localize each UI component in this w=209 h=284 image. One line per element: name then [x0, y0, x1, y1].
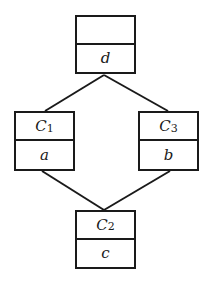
- edge-right-bottom: [104, 171, 170, 210]
- node-c1-value: a: [16, 141, 73, 169]
- node-c2: C2 c: [75, 210, 136, 269]
- node-c3-name: C3: [140, 113, 197, 141]
- node-c3: C3 b: [138, 111, 199, 171]
- node-top-value: d: [77, 45, 134, 73]
- node-c3-value: b: [140, 141, 197, 169]
- edge-top-left: [45, 75, 104, 111]
- node-c1: C1 a: [14, 111, 75, 171]
- node-top: d: [75, 15, 136, 74]
- node-c1-name: C1: [16, 113, 73, 141]
- node-c2-name: C2: [77, 212, 134, 240]
- edge-top-right: [104, 75, 168, 111]
- edge-left-bottom: [42, 171, 104, 210]
- node-top-name: [77, 17, 134, 45]
- node-c2-value: c: [77, 240, 134, 268]
